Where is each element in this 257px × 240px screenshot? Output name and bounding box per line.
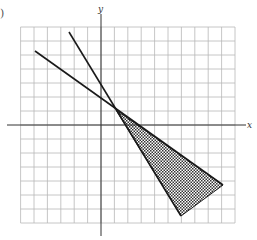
x-axis-label: x: [247, 120, 252, 130]
part-label: ): [0, 7, 4, 20]
y-axis-label: y: [97, 4, 104, 14]
shaded-region: [116, 110, 223, 216]
graph-figure: ) x y: [0, 0, 257, 240]
line-steep: [69, 32, 181, 216]
